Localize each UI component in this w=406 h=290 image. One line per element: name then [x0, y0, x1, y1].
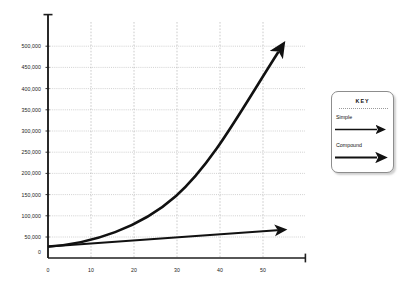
x-tick-label: 0 — [47, 267, 50, 273]
y-tick-label: 50,000 — [25, 234, 41, 240]
x-tick-label: 50 — [260, 267, 266, 273]
y-tick-label: 150,000 — [22, 192, 41, 198]
x-tick-label: 30 — [174, 267, 180, 273]
y-axis — [44, 14, 53, 258]
chart-container: 500,000 450,000 400,000 350,000 300,000 … — [0, 0, 406, 290]
legend-title: KEY — [332, 98, 393, 104]
gridlines-vertical — [91, 22, 263, 258]
gridlines-horizontal — [48, 46, 305, 237]
x-axis — [48, 254, 306, 263]
y-axis-tick-labels: 500,000 450,000 400,000 350,000 300,000 … — [22, 43, 41, 255]
legend-divider — [339, 108, 388, 109]
x-tick-label: 10 — [88, 267, 94, 273]
x-tick-label: 40 — [217, 267, 223, 273]
x-axis-tick-labels: 0 10 20 30 40 50 — [47, 267, 266, 273]
legend-item-compound[interactable]: Compound — [335, 142, 393, 167]
y-tick-label: 450,000 — [22, 64, 41, 70]
y-tick-label: 350,000 — [22, 107, 41, 113]
y-tick-label: 250,000 — [22, 149, 41, 155]
y-tick-label: 0 — [38, 249, 41, 255]
legend-item-simple[interactable]: Simple — [335, 114, 393, 139]
x-tick-label: 20 — [131, 267, 137, 273]
legend-item-label: Compound — [336, 142, 393, 149]
arrow-right-icon — [335, 149, 393, 167]
series-line-simple — [49, 230, 277, 246]
legend-item-label: Simple — [336, 114, 393, 121]
y-tick-label: 500,000 — [22, 43, 41, 49]
series-line-compound — [49, 53, 278, 247]
y-tick-label: 300,000 — [22, 128, 41, 134]
y-tick-label: 200,000 — [22, 170, 41, 176]
y-tick-label: 400,000 — [22, 86, 41, 92]
arrow-right-icon — [335, 121, 393, 139]
chart-legend: KEY Simple Compound — [331, 91, 394, 173]
y-tick-label: 100,000 — [22, 213, 41, 219]
